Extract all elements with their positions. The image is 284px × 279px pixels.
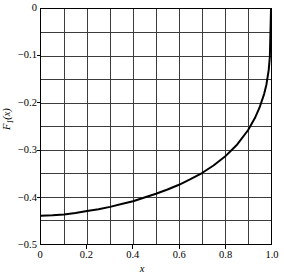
y-axis-title-subscript: 1 bbox=[6, 120, 15, 124]
data-curve bbox=[41, 9, 271, 244]
y-axis-title-arg: (x) bbox=[1, 108, 12, 120]
x-tick-label: 0 bbox=[20, 250, 60, 260]
y-tick-label: −0.4 bbox=[0, 193, 37, 203]
x-tick-label: 0.8 bbox=[206, 250, 246, 260]
y-tick-label: −0.5 bbox=[0, 240, 37, 250]
x-tick-label: 0.6 bbox=[159, 250, 199, 260]
chart-figure: 0−0.1−0.2−0.3−0.4−0.5 00.20.40.60.81.0 F… bbox=[0, 0, 284, 279]
y-tick-label: 0 bbox=[0, 3, 37, 13]
y-tick-label: −0.1 bbox=[0, 50, 37, 60]
y-axis-title-base: F bbox=[1, 124, 12, 130]
x-axis-title: x bbox=[0, 263, 284, 274]
y-axis-title: F1(x) bbox=[1, 89, 15, 149]
x-tick-label: 1.0 bbox=[252, 250, 284, 260]
x-tick-label: 0.2 bbox=[66, 250, 106, 260]
plot-area bbox=[40, 8, 272, 245]
x-tick-label: 0.4 bbox=[113, 250, 153, 260]
